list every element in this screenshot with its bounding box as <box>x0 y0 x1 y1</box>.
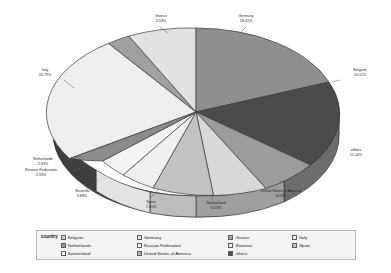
legend-title: country <box>40 233 61 239</box>
slice-label-united-states-of-america: United States of America 6.06% <box>243 189 319 198</box>
legend-column-4: Italy Spain <box>292 233 352 249</box>
legend-swatch-belgium <box>61 235 66 240</box>
legend-item-spain[interactable]: Spain <box>292 242 352 249</box>
legend-item-russian-federation[interactable]: Russian Federation <box>137 242 229 249</box>
legend-swatch-netherlands <box>61 243 66 248</box>
legend-swatch-italy <box>292 235 297 240</box>
legend-label-belgium: Belgium <box>68 235 84 240</box>
legend-label-germany: Germany <box>144 235 162 240</box>
legend-item-others[interactable]: others <box>228 250 292 257</box>
pie-chart: Greece 2.03% Germany 18.61% Belgium 10.1… <box>0 0 391 222</box>
slice-label-switzerland: Switzerland 6.05% <box>188 201 244 210</box>
legend-swatch-russian-federation <box>137 243 142 248</box>
slice-label-belgium: Belgium 10.11% <box>334 68 386 77</box>
slice-label-netherlands: Netherlands 2.93% <box>14 157 72 166</box>
legend-item-greece[interactable]: Greece <box>228 234 292 241</box>
legend-label-italy: Italy <box>299 235 307 240</box>
legend-label-others: others <box>235 251 247 256</box>
legend-swatch-slovenia <box>228 243 233 248</box>
legend-label-russian-federation: Russian Federation <box>144 243 181 248</box>
legend-swatch-switzerland <box>61 251 66 256</box>
legend-item-netherlands[interactable]: Netherlands <box>61 242 137 249</box>
slice-label-spain: Spain 7.81% <box>126 200 176 209</box>
legend-label-united-states-of-america: United States of America <box>144 251 191 256</box>
slice-label-greece: Greece 2.03% <box>133 14 189 23</box>
legend-column-1: Belgium Netherlands Switzerland <box>61 233 137 257</box>
legend-swatch-united-states-of-america <box>137 251 142 256</box>
slice-label-slovenia: Slovenia 3.88% <box>54 189 110 198</box>
legend-label-greece: Greece <box>235 235 249 240</box>
legend-item-italy[interactable]: Italy <box>292 234 352 241</box>
slice-label-italy: Italy 24.79% <box>20 68 70 77</box>
legend-column-2: Germany Russian Federation United States… <box>137 233 229 257</box>
legend-item-slovenia[interactable]: Slovenia <box>228 242 292 249</box>
legend-item-united-states-of-america[interactable]: United States of America <box>137 250 229 257</box>
legend-swatch-spain <box>292 243 297 248</box>
legend-swatch-greece <box>228 235 233 240</box>
slice-label-germany: Germany 18.61% <box>215 14 277 23</box>
legend-label-slovenia: Slovenia <box>235 243 251 248</box>
slice-label-others: others 12.04% <box>330 148 382 157</box>
legend-item-belgium[interactable]: Belgium <box>61 234 137 241</box>
legend-item-germany[interactable]: Germany <box>137 234 229 241</box>
legend-item-switzerland[interactable]: Switzerland <box>61 250 137 257</box>
legend-label-spain: Spain <box>299 243 310 248</box>
legend-label-switzerland: Switzerland <box>68 251 90 256</box>
slice-label-russian-federation: Russian Federation 2.96% <box>8 168 74 177</box>
legend-label-netherlands: Netherlands <box>68 243 91 248</box>
legend-column-3: Greece Slovenia others <box>228 233 292 257</box>
legend-swatch-germany <box>137 235 142 240</box>
legend: country Belgium Netherlands Switzerland … <box>36 230 356 260</box>
legend-swatch-others <box>228 251 233 256</box>
